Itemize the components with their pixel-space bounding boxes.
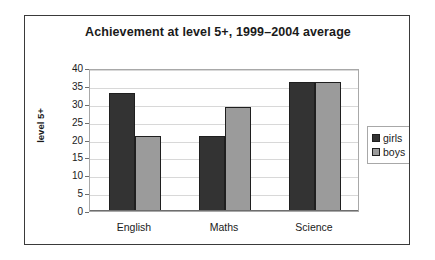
chart-figure: Achievement at level 5+, 1999–2004 avera…: [24, 15, 410, 245]
y-axis-title: level 5+: [35, 96, 46, 156]
chart-title: Achievement at level 5+, 1999–2004 avera…: [25, 25, 410, 39]
x-tick-label-maths: Maths: [179, 221, 269, 233]
y-tick-label: 40: [57, 64, 83, 74]
x-tick-label-science: Science: [269, 221, 359, 233]
bar-group-science: [289, 70, 341, 211]
legend-swatch-icon-boys: [372, 148, 380, 156]
legend-swatch-icon-girls: [372, 134, 380, 142]
y-tick-label: 30: [57, 100, 83, 110]
legend-item-girls[interactable]: girls: [372, 131, 405, 145]
bar-science-boys: [315, 82, 341, 211]
y-tick-label: 20: [57, 136, 83, 146]
legend-label-boys: boys: [383, 147, 405, 158]
bar-english-girls: [109, 93, 135, 211]
y-tick-label: 0: [57, 207, 83, 217]
x-tick-label-english: English: [89, 221, 179, 233]
bar-maths-boys: [225, 107, 251, 211]
plot-area: [89, 69, 359, 212]
y-tick-label: 10: [57, 171, 83, 181]
chart-legend: girlsboys: [367, 126, 410, 164]
y-tick-label: 25: [57, 118, 83, 128]
bar-science-girls: [289, 82, 315, 211]
bar-group-maths: [199, 70, 251, 211]
legend-item-boys[interactable]: boys: [372, 145, 405, 159]
y-tick-label: 35: [57, 82, 83, 92]
y-tick-label: 15: [57, 153, 83, 163]
legend-label-girls: girls: [383, 133, 402, 144]
y-tick-mark: [85, 212, 89, 213]
bar-group-english: [109, 70, 161, 211]
y-tick-label: 5: [57, 189, 83, 199]
bar-maths-girls: [199, 136, 225, 211]
x-axis-line: [90, 210, 358, 211]
bar-english-boys: [135, 136, 161, 211]
